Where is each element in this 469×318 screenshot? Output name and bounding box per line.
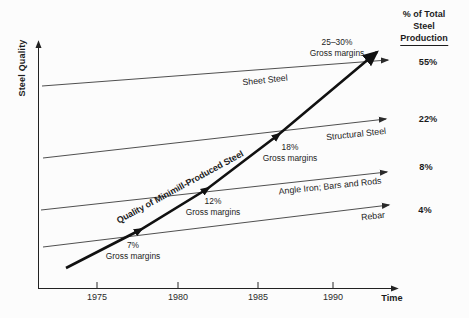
milestone-25-30pct-caption: Gross margins	[310, 48, 364, 59]
tick-label-1975: 1975	[87, 292, 107, 302]
share-sheet-steel: 55%	[419, 57, 437, 67]
milestone-12pct: 12% Gross margins	[186, 196, 240, 217]
tick-label-1990: 1990	[323, 292, 343, 302]
y-axis-label: Steel Quality	[17, 39, 27, 96]
milestone-7pct-value: 7%	[106, 240, 160, 251]
right-header-line-1: % of Total	[400, 8, 448, 20]
right-header-line-2: Steel	[400, 20, 448, 32]
right-header-line-3: Production	[400, 32, 448, 46]
share-angle-iron-bars-rods: 8%	[419, 162, 432, 172]
x-axis-ticks	[97, 282, 333, 289]
minimill-steel-quality-chart: Steel Quality Time 1975 1980 1985 1990 %…	[0, 0, 469, 318]
milestone-18pct-value: 18%	[263, 142, 317, 153]
milestone-18pct-caption: Gross margins	[263, 153, 317, 164]
milestone-12pct-value: 12%	[186, 196, 240, 207]
tick-label-1985: 1985	[248, 292, 268, 302]
milestone-18pct: 18% Gross margins	[263, 142, 317, 163]
x-axis-label: Time	[381, 293, 402, 303]
milestone-25-30pct: 25–30% Gross margins	[310, 37, 364, 58]
milestone-12pct-caption: Gross margins	[186, 207, 240, 218]
share-structural-steel: 22%	[419, 114, 437, 124]
milestone-7pct: 7% Gross margins	[106, 240, 160, 261]
share-rebar: 4%	[418, 205, 431, 215]
milestone-7pct-caption: Gross margins	[106, 251, 160, 262]
tier-line-sheet-steel	[42, 60, 388, 86]
tick-label-1980: 1980	[168, 292, 188, 302]
right-column-header: % of Total Steel Production	[400, 8, 448, 46]
milestone-25-30pct-value: 25–30%	[310, 37, 364, 48]
